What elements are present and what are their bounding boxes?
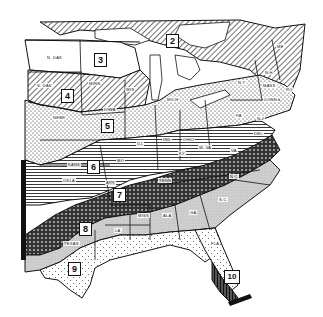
label-ill: ILL: [136, 141, 144, 146]
lake-huron: [175, 55, 200, 80]
label-del: DEL: [253, 131, 264, 136]
label-ga: GA: [189, 210, 197, 215]
label-mich: MICH: [166, 97, 179, 102]
label-ny: N.Y: [237, 80, 247, 85]
label-pa: PA: [235, 113, 243, 118]
label-nc: N.C: [229, 174, 239, 179]
label-conn: CONN: [263, 97, 278, 102]
label-nh: N.H: [264, 70, 274, 75]
label-ri: R.I: [285, 87, 293, 92]
zone-number-7: 7: [113, 188, 126, 202]
label-mo: MO: [116, 158, 125, 163]
label-mass: MASS: [262, 83, 277, 88]
zone-number-2: 2: [166, 34, 179, 48]
label-kans: KANS: [67, 162, 81, 167]
map-frame-left: [21, 160, 26, 260]
label-iowa: IOWA: [103, 107, 117, 112]
label-w-va: W. VA: [198, 145, 212, 150]
label-okla: OKLA: [62, 178, 76, 183]
label-tenn: TENN: [158, 178, 172, 183]
label-s-dak: S. DAK: [36, 83, 53, 88]
label-nebr: NEBR: [52, 115, 66, 120]
label-ala: ALA: [162, 213, 172, 218]
label-la: LA: [114, 228, 122, 233]
zone-number-4: 4: [61, 89, 74, 103]
zone-number-9: 9: [68, 262, 81, 276]
zone-map: [0, 0, 323, 317]
label-sc: S.C: [218, 197, 228, 202]
label-nj: N.J: [256, 116, 265, 121]
label-fla: FLA: [210, 241, 220, 246]
label-minn: MINN: [88, 81, 101, 86]
zone-number-5: 5: [101, 119, 114, 133]
label-texas: TEXAS: [63, 241, 80, 246]
label-wis: WIS: [125, 87, 135, 92]
label-ind: IND: [162, 137, 172, 142]
zone-number-3: 3: [94, 53, 107, 67]
label-me: ME: [276, 44, 285, 49]
zone-number-8: 8: [79, 222, 92, 236]
label-ky: KY: [178, 151, 186, 156]
label-miss: MISS: [137, 213, 150, 218]
zone-number-6: 6: [87, 160, 100, 174]
zone-number-10: 10: [224, 270, 240, 284]
label-n-dak: N. DAK: [46, 55, 63, 60]
label-ark: ARK: [105, 180, 116, 185]
label-va: VA: [230, 148, 238, 153]
lake-michigan: [150, 55, 162, 100]
label-ohio: OHIO: [182, 137, 195, 142]
